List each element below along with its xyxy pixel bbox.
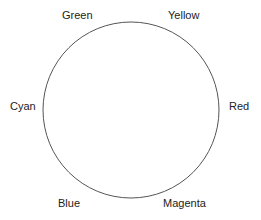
label-red: Red xyxy=(229,100,249,113)
label-blue: Blue xyxy=(58,197,80,210)
label-cyan: Cyan xyxy=(10,100,36,113)
label-magenta: Magenta xyxy=(163,197,206,210)
color-wheel-circle xyxy=(43,22,219,198)
label-yellow: Yellow xyxy=(168,9,199,22)
color-wheel-diagram xyxy=(0,0,261,220)
label-green: Green xyxy=(62,9,93,22)
